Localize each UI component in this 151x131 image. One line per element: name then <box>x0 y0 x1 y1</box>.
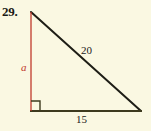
right-angle-marker-icon <box>31 101 40 110</box>
geometry-figure: 29. 20 15 a <box>0 0 151 131</box>
hypotenuse-length-label: 20 <box>81 44 92 56</box>
vertical-leg-label: a <box>21 61 27 73</box>
base-length-label: 15 <box>76 113 87 125</box>
hypotenuse-line <box>31 12 141 111</box>
